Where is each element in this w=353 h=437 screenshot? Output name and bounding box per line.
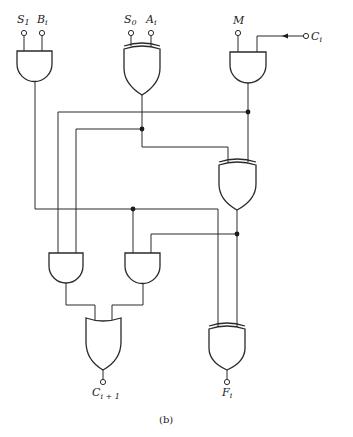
wire-and1-out	[35, 82, 218, 328]
figure-caption: (b)	[159, 414, 173, 425]
junction-dot	[246, 110, 251, 115]
junction-dot	[140, 127, 145, 132]
wire-xor2-branch	[151, 234, 237, 253]
label-s1: S1	[17, 13, 30, 27]
input-pin-s0	[128, 30, 133, 35]
junction-dot	[235, 232, 240, 237]
wire-ci	[257, 36, 304, 52]
xor-gate	[124, 46, 160, 95]
wire-xor1-out	[142, 95, 228, 162]
and-gate	[17, 51, 52, 82]
output-pin-ci1	[100, 379, 105, 384]
label-fi: Fi	[221, 386, 233, 400]
label-ci: Ci	[311, 30, 322, 44]
label-ci-plus-1: Ci + 1	[92, 386, 120, 401]
input-pin-bi	[39, 30, 44, 35]
input-pin-m	[235, 30, 240, 35]
and-gate	[125, 253, 160, 284]
wire-and4-out	[66, 283, 95, 320]
or-gate	[86, 318, 121, 370]
label-bi: Bi	[36, 13, 48, 27]
xor-gate	[209, 326, 245, 370]
logic-circuit-diagram: S1 Bi S0 Ai M Ci Ci + 1 Fi (b)	[0, 0, 353, 437]
wire-and5-out	[112, 283, 143, 320]
label-ai: Ai	[145, 13, 157, 27]
and-gate	[49, 253, 83, 283]
wire-xor1-branch	[76, 129, 142, 253]
and-gate	[230, 52, 266, 83]
label-m: M	[232, 14, 245, 27]
output-pin-fi	[224, 379, 229, 384]
junction-dot	[131, 207, 136, 212]
input-pin-s1	[21, 30, 26, 35]
ci-arrow-icon	[282, 34, 288, 39]
xor-gate	[219, 162, 256, 210]
input-pin-ai	[148, 30, 153, 35]
label-s0: S0	[124, 13, 137, 27]
input-pin-ci	[303, 33, 308, 38]
